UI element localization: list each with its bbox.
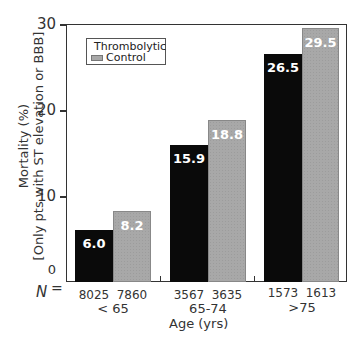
y-tick-label-10: 10 xyxy=(30,187,56,205)
bar-thrombolytic-under-65: 6.0 xyxy=(75,230,113,282)
n-control-over-75: 1613 xyxy=(302,286,340,300)
x-tick-separator-2 xyxy=(254,276,255,282)
n-prefix-equals: = xyxy=(51,280,63,296)
x-tick-separator-1 xyxy=(160,276,161,282)
bar-thrombolytic-65-74: 15.9 xyxy=(170,145,208,282)
bar-control-over-75: 29.5 xyxy=(302,28,339,282)
n-prefix: N xyxy=(36,283,47,301)
y-tick-label-30: 30 xyxy=(30,15,56,33)
n-thrombolytic-65-74: 3567 xyxy=(170,288,208,302)
n-thrombolytic-over-75: 1573 xyxy=(264,286,302,300)
legend-item-control: Control xyxy=(91,52,161,63)
bar-value-label: 18.8 xyxy=(209,127,245,142)
y-tick-label-20: 20 xyxy=(30,101,56,119)
x-axis-title: Age (yrs) xyxy=(169,316,228,331)
bar-control-65-74: 18.8 xyxy=(208,120,246,282)
n-control-65-74: 3635 xyxy=(208,288,246,302)
bar-value-label: 6.0 xyxy=(75,236,113,251)
y-axis-title: Mortality (%) [Only pts with ST elevatio… xyxy=(16,31,48,261)
n-prefix-letter: N xyxy=(36,283,47,301)
y-axis-title-sub: [Only pts with ST elevation or BBB] xyxy=(31,31,46,261)
bar-value-label: 26.5 xyxy=(264,60,302,75)
legend: Thrombolytic Control xyxy=(86,38,166,65)
x-category-over-75: >75 xyxy=(264,300,340,315)
bar-control-under-65: 8.2 xyxy=(113,211,151,282)
legend-swatch-control xyxy=(91,55,103,61)
bar-value-label: 8.2 xyxy=(114,218,150,233)
x-category-under-65: < 65 xyxy=(75,301,151,316)
legend-label-control: Control xyxy=(106,51,146,64)
n-control-under-65: 7860 xyxy=(113,288,151,302)
y-axis-title-main: Mortality (%) xyxy=(16,31,31,261)
x-category-65-74: 65-74 xyxy=(170,301,246,316)
bar-thrombolytic-over-75: 26.5 xyxy=(264,54,302,282)
bar-value-label: 15.9 xyxy=(170,151,208,166)
y-tick-label-0: 0 xyxy=(30,262,56,277)
n-thrombolytic-under-65: 8025 xyxy=(75,288,113,302)
bar-value-label: 29.5 xyxy=(303,35,338,50)
